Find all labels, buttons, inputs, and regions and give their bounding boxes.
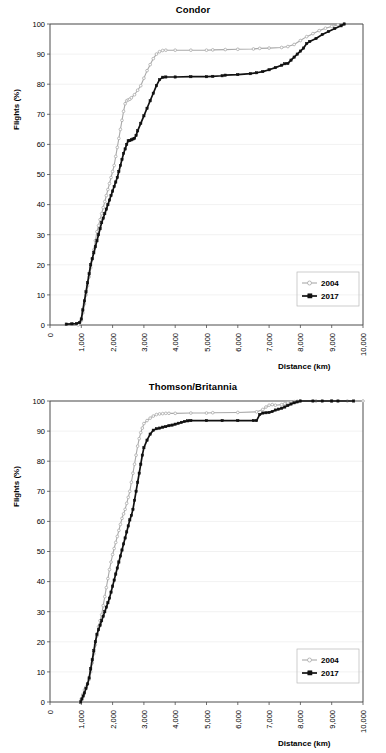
data-point-2004 (274, 404, 277, 407)
x-tick-label: 4,000 (171, 710, 180, 729)
data-point-2004 (119, 523, 122, 526)
data-point-2017 (107, 602, 109, 604)
x-tick-label: 5,000 (203, 710, 212, 729)
data-point-2017 (299, 50, 301, 52)
data-point-2017 (309, 40, 311, 42)
data-point-2017 (337, 400, 339, 402)
data-point-2004 (141, 427, 144, 430)
y-tick-label: 0 (41, 321, 45, 330)
data-point-2017 (105, 606, 107, 608)
data-point-2004 (122, 513, 125, 516)
data-point-2017 (268, 69, 270, 71)
data-point-2017 (165, 425, 167, 427)
data-point-2004 (280, 46, 283, 49)
series-line-2017 (66, 24, 344, 324)
data-point-2017 (135, 490, 137, 492)
data-point-2004 (133, 463, 136, 466)
gridlines (50, 24, 363, 295)
y-tick-label: 40 (37, 577, 45, 586)
data-point-2017 (116, 176, 118, 178)
gridlines (50, 401, 363, 672)
data-point-2017 (237, 419, 239, 421)
x-tick-label: 0 (46, 333, 55, 337)
data-point-2017 (97, 234, 99, 236)
data-point-2017 (252, 419, 254, 421)
data-point-2004 (158, 50, 161, 53)
data-point-2004 (143, 422, 146, 425)
data-point-2017 (91, 258, 93, 260)
data-point-2017 (315, 37, 317, 39)
data-point-2017 (290, 59, 292, 61)
data-point-2004 (155, 53, 158, 56)
data-point-2017 (96, 633, 98, 635)
data-point-2004 (96, 230, 99, 233)
x-tick-label: 8,000 (296, 710, 305, 729)
y-tick-label: 30 (37, 231, 45, 240)
data-point-2017 (174, 76, 176, 78)
y-tick-label: 60 (37, 517, 45, 526)
data-point-2017 (296, 53, 298, 55)
data-point-2017 (221, 75, 223, 77)
data-point-2004 (118, 529, 121, 532)
data-point-2017 (165, 76, 167, 78)
data-point-2017 (293, 402, 295, 404)
data-point-2017 (85, 687, 87, 689)
data-point-2004 (299, 39, 302, 42)
data-point-2017 (158, 427, 160, 429)
data-point-2017 (190, 76, 192, 78)
data-point-2017 (140, 122, 142, 124)
data-point-2017 (280, 64, 282, 66)
data-point-2017 (224, 74, 226, 76)
data-point-2004 (108, 182, 111, 185)
data-point-2017 (306, 42, 308, 44)
x-tick-label: 6,000 (234, 710, 243, 729)
data-point-2017 (135, 134, 137, 136)
legend-label-2017: 2017 (321, 669, 339, 678)
data-point-2017 (155, 428, 157, 430)
plot-area-thomson-britannia: 0102030405060708090100 01,0002,0003,0004… (0, 377, 386, 753)
data-point-2017 (290, 403, 292, 405)
data-point-2017 (255, 419, 257, 421)
data-point-2017 (262, 412, 264, 414)
data-point-2004 (168, 412, 171, 415)
data-point-2004 (362, 400, 365, 403)
data-point-2004 (190, 412, 193, 415)
data-point-2017 (212, 75, 214, 77)
data-point-2004 (133, 93, 136, 96)
data-point-2017 (205, 76, 207, 78)
data-point-2017 (119, 555, 121, 557)
data-point-2004 (110, 176, 113, 179)
data-point-2004 (124, 102, 127, 105)
data-point-2017 (116, 567, 118, 569)
data-point-2017 (93, 650, 95, 652)
x-tick-label: 6,000 (234, 333, 243, 352)
data-point-2017 (162, 76, 164, 78)
data-point-2017 (162, 426, 164, 428)
data-point-2017 (221, 419, 223, 421)
data-point-2004 (103, 595, 106, 598)
data-point-2004 (113, 164, 116, 167)
data-point-2004 (152, 415, 155, 418)
data-point-2017 (88, 273, 90, 275)
data-point-2004 (236, 411, 239, 414)
data-point-2017 (65, 323, 67, 325)
data-point-2004 (330, 25, 333, 28)
data-point-2004 (318, 29, 321, 32)
y-tick-labels: 0102030405060708090100 (32, 397, 45, 707)
data-point-2017 (287, 62, 289, 64)
data-point-2004 (114, 155, 117, 158)
data-point-2017 (115, 573, 117, 575)
x-tick-labels: 01,0002,0003,0004,0005,0006,0007,0008,00… (46, 333, 368, 356)
data-point-2017 (96, 240, 98, 242)
chart-condor: Condor Flights (%) Distance (km) 0102030… (0, 0, 386, 376)
data-point-2004 (287, 401, 290, 404)
data-point-2004 (136, 445, 139, 448)
data-point-2017 (299, 400, 301, 402)
data-point-2004 (102, 206, 105, 209)
data-point-2017 (101, 620, 103, 622)
data-point-2004 (255, 410, 258, 413)
x-tick-label: 1,000 (77, 710, 86, 729)
data-point-2017 (146, 439, 148, 441)
data-point-2017 (138, 472, 140, 474)
data-point-2017 (274, 409, 276, 411)
